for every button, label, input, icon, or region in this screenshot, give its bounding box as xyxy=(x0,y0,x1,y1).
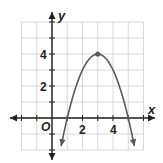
parabola-graph: y x O 2 4 2 4 xyxy=(0,0,163,163)
y-axis-label: y xyxy=(57,8,66,23)
y-axis-up-arrow-icon xyxy=(49,12,56,19)
origin-label: O xyxy=(41,120,51,134)
vertex-point xyxy=(95,51,100,56)
y-tick-label-4: 4 xyxy=(40,48,47,62)
x-axis-left-arrow-icon xyxy=(10,115,17,122)
x-tick-label-4: 4 xyxy=(110,123,117,137)
curve-arrow-icon xyxy=(130,139,136,146)
x-tick-label-2: 2 xyxy=(79,123,86,137)
curve-arrow-icon xyxy=(59,139,65,146)
y-tick-label-2: 2 xyxy=(40,80,47,94)
y-axis-down-arrow-icon xyxy=(49,153,56,160)
x-axis-label: x xyxy=(147,102,156,117)
